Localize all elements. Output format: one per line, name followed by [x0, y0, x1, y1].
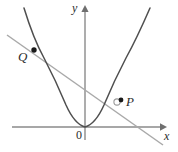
origin-label: 0 — [76, 129, 82, 141]
parabola-curve — [24, 8, 150, 127]
graph-figure: y x Q P 0 — [0, 0, 178, 152]
graph-canvas — [0, 0, 178, 152]
y-axis-label: y — [72, 2, 77, 14]
point-q-marker — [31, 47, 36, 52]
x-axis-label: x — [164, 130, 169, 142]
point-p-label: P — [126, 95, 134, 108]
point-q-label: Q — [18, 50, 27, 63]
point-p-marker — [114, 98, 124, 106]
y-axis — [81, 5, 88, 140]
